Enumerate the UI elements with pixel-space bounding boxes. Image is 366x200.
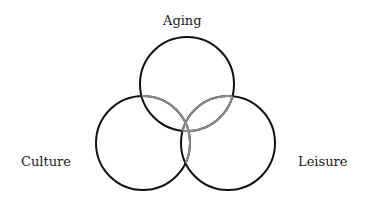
venn-diagram: Aging Culture Leisure (0, 0, 366, 200)
label-aging: Aging (163, 13, 202, 28)
venn-circles (0, 0, 366, 200)
overlap-arcs (96, 37, 275, 190)
label-leisure: Leisure (298, 154, 347, 169)
label-culture: Culture (21, 154, 71, 169)
